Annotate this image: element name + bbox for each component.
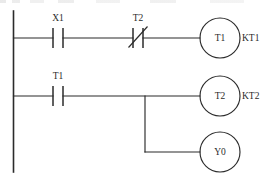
contact-t2[interactable] — [129, 27, 148, 49]
ladder-diagram-canvas: X1 T2 T1 KT1 — [0, 0, 272, 186]
coil-t2-label: T2 — [215, 91, 226, 101]
rung-1: X1 T2 T1 KT1 — [14, 13, 260, 58]
coil-y0[interactable]: Y0 — [200, 132, 240, 172]
contact-t1-label: T1 — [53, 71, 64, 81]
contact-x1[interactable] — [53, 28, 63, 48]
contact-t2-label: T2 — [133, 13, 144, 23]
rung-2: T1 T2 KT2 Y0 — [14, 71, 260, 172]
coil-t1-side-label: KT1 — [242, 33, 260, 43]
coil-t2-side-label: KT2 — [242, 91, 260, 101]
contact-x1-label: X1 — [52, 13, 64, 23]
coil-y0-label: Y0 — [214, 147, 226, 157]
coil-t2[interactable]: T2 — [200, 76, 240, 116]
contact-t2-nc-slash-icon — [129, 27, 148, 48]
ladder-diagram-svg: X1 T2 T1 KT1 — [0, 0, 272, 186]
branch-y0 — [145, 96, 200, 152]
contact-t1[interactable] — [53, 86, 63, 106]
coil-t1-label: T1 — [215, 33, 226, 43]
coil-t1[interactable]: T1 — [200, 18, 240, 58]
